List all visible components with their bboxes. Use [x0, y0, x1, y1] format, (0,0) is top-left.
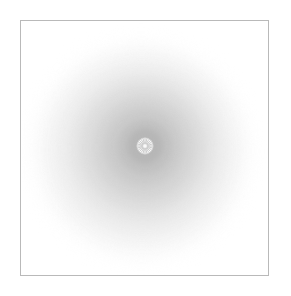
center-rosette-icon	[135, 136, 155, 156]
artwork-plate	[22, 22, 268, 275]
artwork-canvas	[0, 0, 291, 296]
